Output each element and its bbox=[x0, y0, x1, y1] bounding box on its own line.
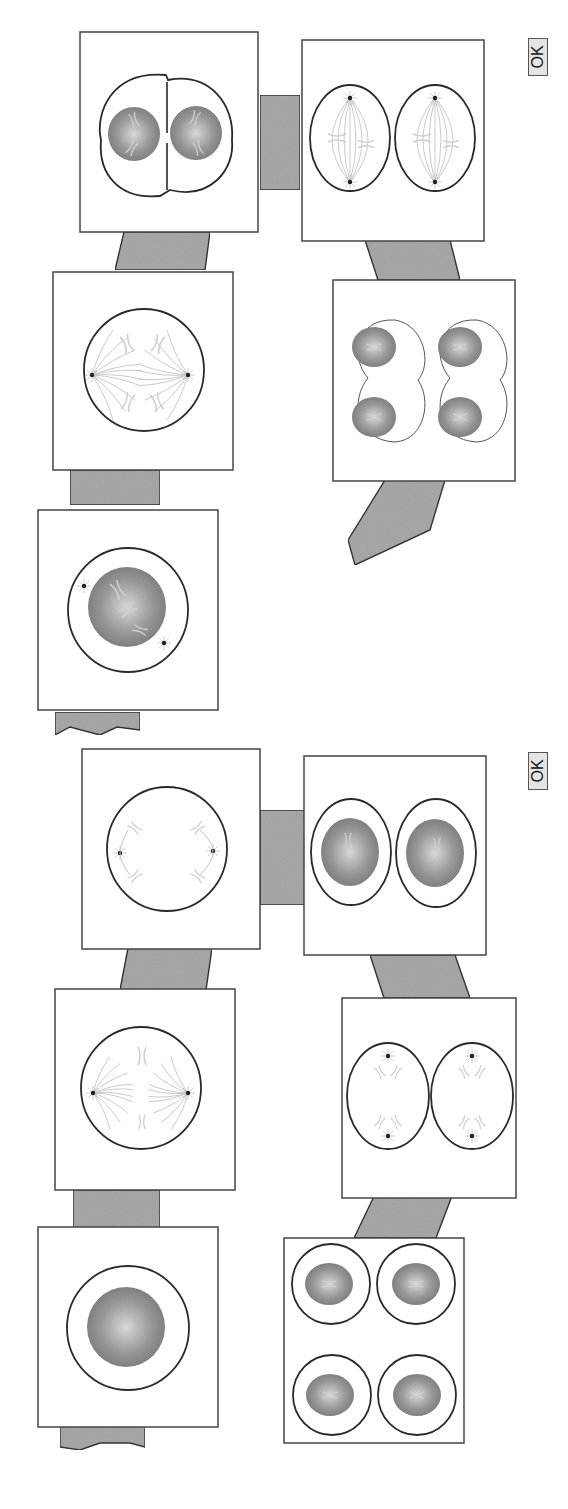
connector-arrow bbox=[260, 95, 300, 190]
centrosome bbox=[343, 175, 357, 189]
connector-arrow bbox=[60, 1425, 145, 1450]
centrosome bbox=[181, 1086, 195, 1100]
nucleus bbox=[88, 567, 166, 647]
centrosome bbox=[181, 368, 195, 382]
nucleus bbox=[393, 1374, 441, 1416]
centrosome bbox=[381, 1049, 395, 1063]
connector-arrow bbox=[365, 240, 460, 280]
ok-button-label: OK bbox=[530, 759, 546, 782]
connector-arrow bbox=[260, 810, 305, 905]
ok-button-label: OK bbox=[530, 45, 546, 68]
connector-arrow bbox=[370, 955, 470, 998]
nucleus bbox=[87, 1287, 165, 1367]
nucleus bbox=[406, 819, 464, 887]
nucleus bbox=[305, 1263, 353, 1305]
ok-button-mitosis[interactable]: OK bbox=[528, 752, 548, 790]
nucleus bbox=[392, 1263, 440, 1305]
cell-membrane bbox=[84, 309, 204, 431]
centrosome bbox=[465, 1129, 479, 1143]
connector-arrow bbox=[55, 712, 140, 735]
centrosome bbox=[77, 579, 91, 593]
centrosome bbox=[465, 1049, 479, 1063]
centrosome bbox=[86, 1086, 100, 1100]
cell-division-diagram bbox=[0, 0, 568, 1509]
centrosome bbox=[381, 1129, 395, 1143]
centrosome bbox=[343, 91, 357, 105]
connector-arrow bbox=[348, 480, 445, 565]
nucleus bbox=[170, 106, 222, 160]
ok-button-meiosis[interactable]: OK bbox=[528, 38, 548, 76]
centrosome bbox=[157, 636, 171, 650]
centrosome bbox=[85, 368, 99, 382]
nucleus bbox=[352, 327, 396, 367]
cell-membrane bbox=[107, 787, 227, 911]
nucleus bbox=[438, 397, 482, 437]
centrosome bbox=[428, 91, 442, 105]
nucleus bbox=[352, 397, 396, 437]
nucleus bbox=[321, 818, 379, 886]
nucleus bbox=[438, 327, 482, 367]
nucleus bbox=[306, 1374, 354, 1416]
centrosome bbox=[428, 175, 442, 189]
connector-arrow bbox=[120, 948, 212, 990]
connector-arrow bbox=[115, 232, 210, 270]
connector-arrow bbox=[73, 1190, 160, 1228]
connector-arrow bbox=[70, 470, 160, 505]
